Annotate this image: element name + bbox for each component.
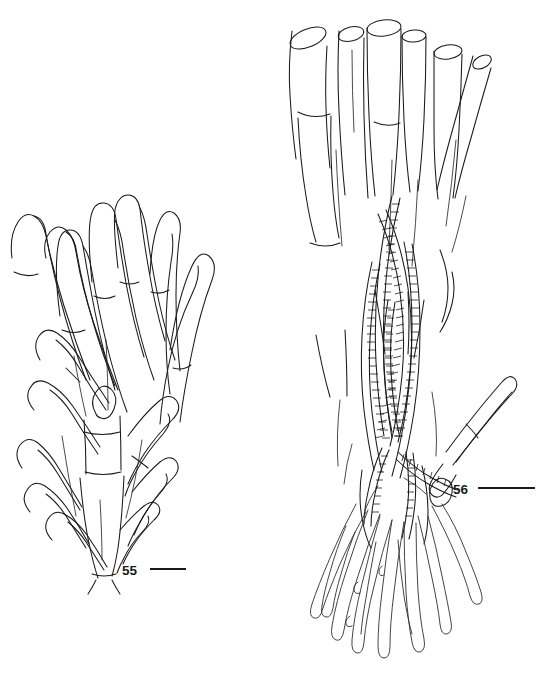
figure-56-label: 56 — [453, 482, 469, 497]
rhizoid-group — [310, 504, 482, 658]
figure-56-drawing — [287, 18, 517, 658]
figure-55-drawing — [11, 195, 214, 594]
plate-canvas: 55 — [0, 0, 550, 675]
illustration-plate: 55 — [0, 0, 550, 675]
figure-55-label: 55 — [122, 563, 138, 578]
striated-strand-group — [361, 196, 458, 539]
